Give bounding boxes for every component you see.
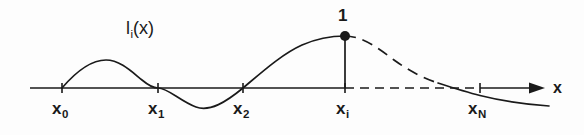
tick-label-x1-subscript: 1 xyxy=(157,108,164,120)
tick-label-xi: xi xyxy=(336,100,349,120)
function-label: li(x) xyxy=(126,19,154,40)
x-axis-label: x xyxy=(553,80,562,96)
tick-label-x2-subscript: 2 xyxy=(242,108,249,120)
tick-label-x1: x1 xyxy=(148,100,164,120)
x-axis-arrowhead-icon xyxy=(529,83,545,94)
function-label-argument: (x) xyxy=(133,18,154,38)
lagrange-basis-plot xyxy=(0,0,584,135)
tick-label-x0: x0 xyxy=(52,100,68,120)
tick-label-xi-subscript: i xyxy=(345,108,349,120)
peak-value-label: 1 xyxy=(338,7,347,24)
figure-canvas: li(x) 1 x x0 x1 x2 xi xN xyxy=(0,0,584,135)
peak-value-dot xyxy=(340,31,350,41)
tick-label-x2: x2 xyxy=(233,100,249,120)
tick-label-xN-subscript: N xyxy=(477,108,486,120)
tick-label-xN: xN xyxy=(468,100,486,120)
basis-curve-solid-main xyxy=(62,36,345,108)
basis-curve-dashed-segment xyxy=(345,36,440,84)
tick-label-x0-subscript: 0 xyxy=(61,108,68,120)
